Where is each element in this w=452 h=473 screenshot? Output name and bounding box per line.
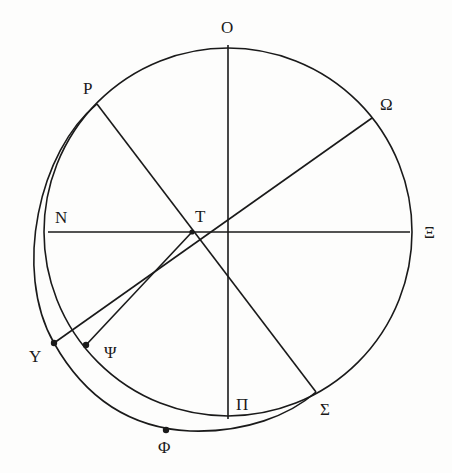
label-Pi: Π bbox=[236, 395, 248, 414]
line-T-Psi bbox=[86, 232, 192, 345]
chord-P-Sigma bbox=[97, 104, 316, 392]
label-T: Τ bbox=[195, 207, 206, 226]
geometry-figure: Ο Ρ Ω Ν Τ Ξ Υ Ψ Π Σ Φ bbox=[0, 0, 452, 473]
point-T bbox=[189, 229, 194, 234]
label-Phi: Φ bbox=[158, 438, 170, 457]
label-Xi: Ξ bbox=[424, 223, 435, 242]
label-Psi: Ψ bbox=[104, 343, 117, 362]
label-N: Ν bbox=[55, 208, 67, 227]
line-Omega-Upsilon bbox=[54, 118, 372, 343]
point-Phi bbox=[163, 427, 169, 433]
point-Upsilon bbox=[51, 340, 57, 346]
diagram-canvas: Ο Ρ Ω Ν Τ Ξ Υ Ψ Π Σ Φ bbox=[0, 0, 452, 473]
label-Omega: Ω bbox=[380, 95, 393, 114]
label-P: Ρ bbox=[83, 79, 92, 98]
outer-crescent-arc bbox=[34, 104, 316, 431]
label-Upsilon: Υ bbox=[29, 347, 41, 366]
label-Sigma: Σ bbox=[320, 400, 330, 419]
point-Psi bbox=[83, 342, 89, 348]
label-O: Ο bbox=[221, 18, 233, 37]
